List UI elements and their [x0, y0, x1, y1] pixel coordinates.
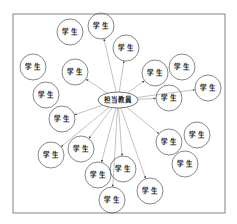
- student-node: 学 生: [62, 59, 88, 85]
- student-node: 学 生: [156, 85, 182, 111]
- student-label: 学 生: [118, 43, 134, 52]
- student-node: 学 生: [142, 60, 168, 86]
- student-node: 学 生: [113, 35, 139, 61]
- student-label: 学 生: [73, 144, 89, 153]
- student-label: 学 生: [115, 164, 131, 173]
- student-node: 学 生: [172, 151, 198, 177]
- connector-arrow: [127, 107, 159, 133]
- student-label: 学 生: [43, 150, 59, 159]
- student-label: 学 生: [200, 83, 216, 92]
- student-node: 学 生: [99, 187, 125, 213]
- student-node: 学 生: [195, 75, 221, 101]
- connector-arrow: [104, 39, 116, 92]
- connector-arrow: [119, 108, 122, 156]
- student-label: 学 生: [90, 170, 106, 179]
- student-node: 学 生: [156, 129, 182, 155]
- student-label: 学 生: [142, 186, 158, 195]
- connector-arrow: [86, 79, 107, 93]
- student-node: 学 生: [68, 136, 94, 162]
- student-label: 学 生: [189, 130, 205, 139]
- student-label: 学 生: [104, 195, 120, 204]
- connector-arrow: [119, 61, 124, 92]
- student-node: 学 生: [169, 54, 195, 80]
- student-node: 学 生: [184, 122, 210, 148]
- student-label: 学 生: [174, 62, 190, 71]
- student-label: 学 生: [161, 93, 177, 102]
- connector-arrow: [138, 99, 156, 100]
- student-label: 学 生: [62, 27, 78, 36]
- connector-arrow: [101, 108, 115, 162]
- connector-arrow: [128, 81, 144, 93]
- student-node: 学 生: [88, 13, 114, 39]
- student-label: 学 生: [161, 137, 177, 146]
- student-node: 学 生: [49, 106, 75, 132]
- student-label: 学 生: [38, 90, 54, 99]
- connector-arrow: [75, 105, 103, 114]
- student-node: 学 生: [38, 142, 64, 168]
- student-label: 学 生: [147, 68, 163, 77]
- student-node: 学 生: [85, 162, 111, 188]
- student-label: 学 生: [25, 62, 41, 71]
- student-node: 学 生: [110, 156, 136, 182]
- student-label: 学 生: [93, 21, 109, 30]
- student-nodes: 学 生学 生学 生学 生学 生学 生学 生学 生学 生学 生学 生学 生学 生学…: [20, 13, 221, 213]
- student-node: 学 生: [137, 178, 163, 204]
- teacher-label: 担当教員: [104, 95, 132, 104]
- student-label: 学 生: [177, 159, 193, 168]
- teacher-node: 担当教員: [98, 92, 138, 108]
- student-node: 学 生: [57, 19, 83, 45]
- connector-arrow: [61, 107, 109, 146]
- teacher-student-diagram: 学 生学 生学 生学 生学 生学 生学 生学 生学 生学 生学 生学 生学 生学…: [0, 0, 237, 224]
- student-node: 学 生: [20, 54, 46, 80]
- connector-arrow: [113, 108, 118, 187]
- student-label: 学 生: [67, 67, 83, 76]
- student-node: 学 生: [33, 82, 59, 108]
- student-label: 学 生: [54, 114, 70, 123]
